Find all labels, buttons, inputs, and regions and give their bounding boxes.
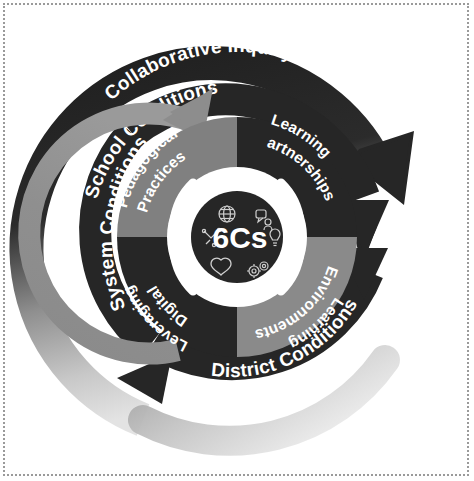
coherence-framework-diagram: Collaborative Inquiry School Conditions … xyxy=(0,0,474,481)
diagram-canvas: Collaborative Inquiry School Conditions … xyxy=(0,0,474,481)
core-circle[interactable]: 6Cs xyxy=(191,191,283,283)
core-label: 6Cs xyxy=(212,221,267,254)
